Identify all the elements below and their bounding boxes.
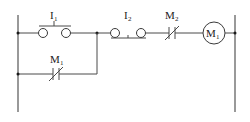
ladder-diagram: I 1 I 2 M 2 — [0, 0, 250, 122]
label-m1: M — [50, 53, 60, 65]
push-button-i1: I 1 — [39, 9, 72, 38]
contact-terminal-left — [111, 29, 120, 38]
rung-1: I 1 I 2 M 2 — [17, 9, 237, 44]
label-m1-subscript: 1 — [60, 59, 64, 67]
rung-2: M 1 — [17, 33, 98, 81]
push-button-i2: I 2 — [111, 9, 147, 38]
contact-m1-nc: M 1 — [49, 53, 64, 81]
coil-m1: M 1 — [203, 22, 225, 44]
label-m2: M — [165, 9, 175, 21]
contact-m2-nc: M 2 — [165, 9, 179, 40]
label-i2-subscript: 2 — [128, 15, 132, 23]
label-i1-subscript: 1 — [54, 15, 58, 23]
junction-dot — [17, 73, 20, 76]
label-coil-m1: M — [206, 27, 216, 39]
label-m2-subscript: 2 — [175, 15, 179, 23]
contact-terminal-right — [137, 29, 146, 38]
ladder-diagram-canvas: I 1 I 2 M 2 — [0, 0, 250, 122]
label-coil-m1-subscript: 1 — [216, 33, 220, 41]
junction-dot — [17, 32, 20, 35]
junction-dot — [234, 32, 237, 35]
contact-terminal-right — [62, 29, 71, 38]
contact-terminal-left — [39, 29, 48, 38]
